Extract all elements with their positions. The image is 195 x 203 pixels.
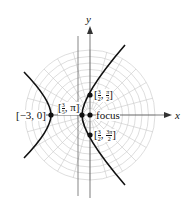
right-vertex-label: [35, π] [58, 102, 79, 115]
bottom-point [87, 132, 92, 137]
left-vertex-label: [−3, 0] [16, 110, 46, 121]
bottom-point-label: [32, 3π2] [94, 129, 116, 142]
right-vertex-point [79, 112, 84, 117]
x-axis-label: x [175, 110, 180, 121]
focus-label: focus [96, 110, 120, 121]
x-axis-arrow [164, 112, 172, 118]
y-axis-arrow [87, 26, 93, 34]
top-point-label: [32, π2] [94, 89, 113, 102]
left-vertex-point [48, 112, 53, 117]
top-point [87, 92, 92, 97]
y-axis-label: y [86, 14, 91, 25]
focus-point [87, 112, 92, 117]
